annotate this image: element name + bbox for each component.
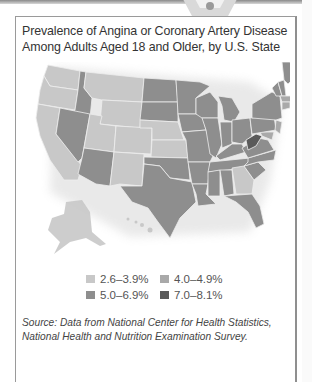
top-strip bbox=[0, 0, 312, 4]
state-WY bbox=[100, 100, 142, 128]
legend-label: 2.6–3.9% bbox=[100, 273, 149, 285]
us-choropleth-map bbox=[20, 62, 290, 262]
legend-swatch bbox=[160, 291, 169, 299]
legend-label: 5.0–6.9% bbox=[100, 289, 149, 301]
legend-item-4-0-4-9: 4.0–4.9% bbox=[160, 273, 234, 285]
legend-item-5-0-6-9: 5.0–6.9% bbox=[86, 289, 160, 301]
legend-swatch bbox=[86, 275, 95, 283]
legend-swatch bbox=[160, 275, 169, 283]
legend-label: 4.0–4.9% bbox=[174, 273, 223, 285]
warning-sign-icon bbox=[168, 0, 252, 16]
figure-source: Source: Data from National Center for He… bbox=[22, 316, 297, 344]
figure-title: Prevalence of Angina or Coronary Artery … bbox=[22, 23, 292, 55]
state-CO bbox=[114, 126, 152, 154]
state-KS bbox=[151, 140, 188, 158]
state-IN bbox=[220, 122, 232, 148]
state-ND bbox=[142, 78, 178, 102]
legend-item-7-0-8-1: 7.0–8.1% bbox=[160, 289, 234, 301]
state-NM bbox=[110, 152, 144, 186]
state-MA bbox=[280, 96, 290, 102]
state-SD bbox=[140, 102, 178, 122]
page-edge bbox=[302, 0, 312, 382]
map-legend: 2.6–3.9% 4.0–4.9% 5.0–6.9% 7.0–8.1% bbox=[86, 271, 266, 303]
state-CT bbox=[282, 102, 290, 110]
state-AR bbox=[188, 162, 210, 184]
legend-swatch bbox=[86, 291, 95, 299]
legend-item-2-6-3-9: 2.6–3.9% bbox=[86, 273, 160, 285]
state-MS bbox=[208, 170, 220, 196]
legend-label: 7.0–8.1% bbox=[174, 289, 223, 301]
